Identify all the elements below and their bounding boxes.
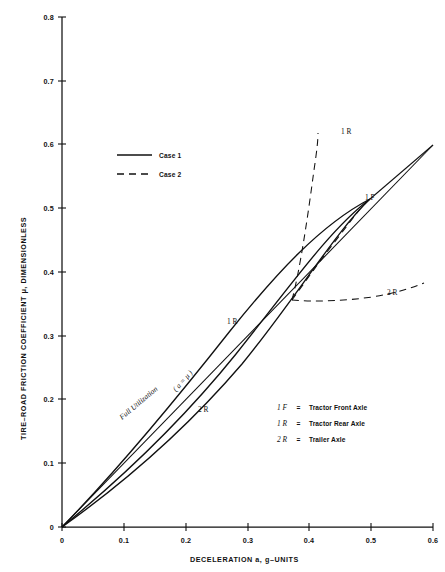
y-tick-label: 0.4 xyxy=(43,268,54,277)
friction-coefficient-chart: 0 0.1 0.2 0.3 0.4 0.5 0.6 0.7 0.8 0 0.1 … xyxy=(0,0,445,572)
legend: Case 1 Case 2 xyxy=(117,152,182,178)
note-row: 1 R = Tractor Rear Axle xyxy=(277,412,365,429)
legend-label-case-1: Case 1 xyxy=(159,152,182,159)
label-1f-upper: 1 F xyxy=(365,193,375,202)
label-2r-lower: 2 R xyxy=(198,405,209,414)
note-description: Tractor Rear Axle xyxy=(309,420,365,427)
note-row: 1 F = Tractor Front Axle xyxy=(277,396,367,413)
axle-key-notes: 1 F = Tractor Front Axle 1 R = Tractor R… xyxy=(277,396,367,445)
note-equals: = xyxy=(297,436,301,443)
x-tick-label: 0.3 xyxy=(243,536,254,545)
y-axis-title: TIRE–ROAD FRICTION COEFFICIENT μ, DIMENS… xyxy=(19,217,28,440)
curve-1r-case2 xyxy=(292,133,318,300)
axes-group xyxy=(62,17,433,527)
y-tick-label: 0.5 xyxy=(43,204,54,213)
curves-group xyxy=(62,133,433,527)
note-description: Tractor Front Axle xyxy=(309,404,368,411)
y-tick-label: 0.3 xyxy=(43,332,54,341)
x-tick-label: 0.5 xyxy=(366,536,377,545)
label-1r-upper: 1 R xyxy=(341,127,352,136)
curve-full-utilization xyxy=(62,145,433,527)
legend-label-case-2: Case 2 xyxy=(159,171,182,178)
note-equals: = xyxy=(297,404,301,411)
y-tick-label: 0.7 xyxy=(43,77,54,86)
curve-1f-case1 xyxy=(62,199,370,527)
x-axis-title: DECELERATION a, g–UNITS xyxy=(190,555,299,564)
curve-converged-upper xyxy=(370,145,433,199)
y-tick-label: 0 xyxy=(50,523,54,532)
note-symbol: 2 R xyxy=(277,435,288,444)
note-row: 2 R = Trailer Axle xyxy=(277,428,346,445)
label-2r-right: 2 R xyxy=(387,288,398,297)
x-tick-label: 0 xyxy=(60,536,64,545)
note-description: Trailer Axle xyxy=(309,436,346,443)
x-tick-label: 0.2 xyxy=(181,536,192,545)
y-tick-label: 0.1 xyxy=(43,459,54,468)
x-tick-label: 0.1 xyxy=(119,536,130,545)
note-symbol: 1 F xyxy=(277,403,288,412)
curve-2r-case2 xyxy=(292,283,424,301)
label-full-utilization: Full Utilization xyxy=(117,384,160,422)
y-tick-label: 0.6 xyxy=(43,140,54,149)
x-axis-tick-labels: 0 0.1 0.2 0.3 0.4 0.5 0.6 xyxy=(60,536,438,545)
y-axis-tick-labels: 0 0.1 0.2 0.3 0.4 0.5 0.6 0.7 0.8 xyxy=(43,13,54,532)
label-1r-mid: 1 R xyxy=(227,317,238,326)
note-symbol: 1 R xyxy=(277,419,288,428)
y-tick-label: 0.2 xyxy=(43,395,54,404)
x-tick-label: 0.4 xyxy=(304,536,315,545)
y-tick-label: 0.8 xyxy=(43,13,54,22)
note-equals: = xyxy=(297,420,301,427)
chart-figure: 0 0.1 0.2 0.3 0.4 0.5 0.6 0.7 0.8 0 0.1 … xyxy=(0,0,445,572)
x-tick-label: 0.6 xyxy=(428,536,439,545)
